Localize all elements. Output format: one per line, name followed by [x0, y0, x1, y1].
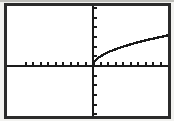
x-axis — [7, 65, 168, 67]
graph-canvas — [7, 6, 168, 116]
bezel-top-edge — [0, 0, 174, 2]
graph-plot-area[interactable] — [7, 6, 168, 116]
calculator-screenshot: y=√x — [0, 0, 177, 128]
graph-viewport-frame[interactable] — [4, 3, 171, 119]
function-curve — [93, 35, 168, 66]
